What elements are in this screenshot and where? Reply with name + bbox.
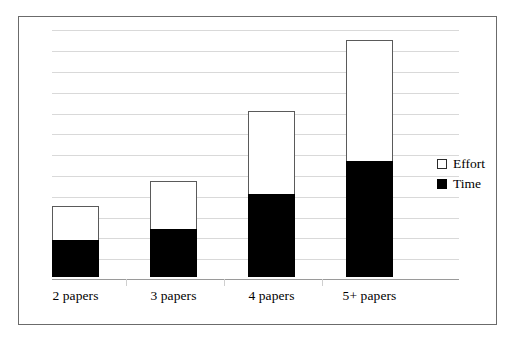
bar-segment-time[interactable] <box>150 229 197 277</box>
bar-stack[interactable] <box>346 40 393 277</box>
chart-legend: Effort Time <box>437 154 485 194</box>
bar-segment-effort[interactable] <box>150 181 197 229</box>
bar-segment-effort[interactable] <box>248 111 295 194</box>
bar-segment-effort[interactable] <box>346 40 393 161</box>
category-label-2: 4 papers <box>217 288 327 304</box>
bar-stack[interactable] <box>150 181 197 277</box>
axis-tick <box>126 279 127 286</box>
bar-segment-time[interactable] <box>248 194 295 277</box>
bar-stack[interactable] <box>52 206 99 277</box>
category-label-0: 2 papers <box>21 288 131 304</box>
bar-segment-effort[interactable] <box>52 206 99 239</box>
bar-segment-time[interactable] <box>52 240 99 277</box>
legend-item-effort[interactable]: Effort <box>437 154 485 174</box>
axis-tick <box>322 279 323 286</box>
chart-frame: Effort Time 2 papers3 papers4 papers5+ p… <box>18 16 497 325</box>
category-label-1: 3 papers <box>119 288 229 304</box>
legend-label-effort: Effort <box>453 156 485 172</box>
category-label-3: 5+ papers <box>315 288 425 304</box>
category-axis-line <box>52 279 459 280</box>
axis-tick <box>224 279 225 286</box>
legend-swatch-time-icon <box>437 179 447 189</box>
gridline <box>52 72 459 73</box>
gridline <box>52 51 459 52</box>
legend-swatch-effort-icon <box>437 159 447 169</box>
legend-label-time: Time <box>453 176 481 192</box>
legend-item-time[interactable]: Time <box>437 174 485 194</box>
bar-segment-time[interactable] <box>346 161 393 277</box>
bar-stack[interactable] <box>248 111 295 277</box>
gridline <box>52 93 459 94</box>
gridline <box>52 30 459 31</box>
